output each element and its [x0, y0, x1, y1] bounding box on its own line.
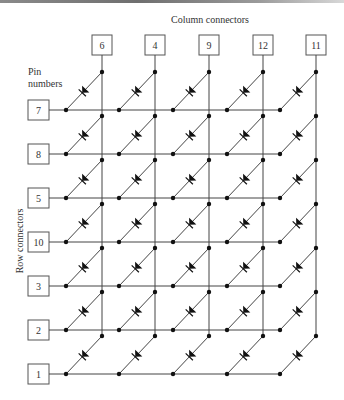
led-diode — [117, 70, 157, 112]
row-node — [225, 284, 229, 288]
column-pin-label: 11 — [311, 40, 321, 51]
led-diode — [64, 246, 104, 288]
led-diode — [225, 202, 265, 244]
led-diode — [278, 334, 318, 376]
row-node — [225, 328, 229, 332]
row-node — [278, 284, 282, 288]
column-node — [314, 246, 318, 250]
led-diode — [225, 158, 265, 200]
row-node — [64, 328, 68, 332]
led-diode — [278, 202, 318, 244]
row-pin-label: 3 — [36, 281, 41, 292]
row-pin-label: 8 — [36, 149, 41, 160]
row-node — [171, 284, 175, 288]
column-node — [207, 114, 211, 118]
column-pin-label: 4 — [153, 40, 158, 51]
row-node — [278, 240, 282, 244]
column-pin-label: 6 — [100, 40, 105, 51]
led-diode — [117, 246, 157, 288]
column-node — [153, 290, 157, 294]
led-diode — [278, 70, 318, 112]
led-diode — [278, 246, 318, 288]
led-diode — [64, 158, 104, 200]
column-node — [153, 246, 157, 250]
led-diode — [225, 114, 265, 156]
led-diode — [117, 202, 157, 244]
row-node — [278, 328, 282, 332]
column-node — [100, 334, 104, 338]
row-node — [225, 108, 229, 112]
column-node — [153, 158, 157, 162]
column-pin-label: 9 — [207, 40, 212, 51]
row-node — [278, 196, 282, 200]
row-node — [64, 108, 68, 112]
column-node — [153, 70, 157, 74]
row-node — [64, 372, 68, 376]
column-node — [100, 246, 104, 250]
led-diode — [64, 334, 104, 376]
column-node — [100, 290, 104, 294]
row-pin-label: 5 — [36, 193, 41, 204]
row-pin-label: 1 — [36, 369, 41, 380]
led-diode — [64, 290, 104, 332]
led-diode — [171, 158, 211, 200]
led-diode — [171, 70, 211, 112]
led-diode — [171, 202, 211, 244]
led-diode — [171, 114, 211, 156]
row-node — [278, 108, 282, 112]
led-diode — [171, 334, 211, 376]
led-diode — [225, 70, 265, 112]
column-node — [100, 114, 104, 118]
column-node — [261, 334, 265, 338]
column-node — [100, 70, 104, 74]
column-node — [261, 246, 265, 250]
column-node — [261, 114, 265, 118]
row-pin-label: 2 — [36, 325, 41, 336]
row-node — [117, 284, 121, 288]
row-pin-label: 10 — [34, 237, 44, 248]
row-node — [117, 152, 121, 156]
row-node — [117, 240, 121, 244]
row-node — [171, 108, 175, 112]
row-node — [117, 372, 121, 376]
led-diode — [171, 290, 211, 332]
column-pin-label: 12 — [258, 40, 268, 51]
led-diode — [117, 290, 157, 332]
led-diode — [64, 70, 104, 112]
column-node — [314, 290, 318, 294]
row-node — [171, 152, 175, 156]
led-diode — [117, 114, 157, 156]
row-node — [117, 196, 121, 200]
led-diode — [225, 334, 265, 376]
led-diode — [64, 202, 104, 244]
row-node — [171, 240, 175, 244]
row-node — [225, 196, 229, 200]
row-node — [117, 328, 121, 332]
column-node — [207, 70, 211, 74]
led-diode — [278, 290, 318, 332]
column-node — [153, 202, 157, 206]
row-node — [64, 240, 68, 244]
column-node — [207, 334, 211, 338]
row-connectors-label: Row connectors — [14, 209, 25, 274]
column-node — [261, 290, 265, 294]
row-node — [171, 328, 175, 332]
row-node — [225, 240, 229, 244]
column-node — [153, 114, 157, 118]
led-diode — [225, 246, 265, 288]
led-diode — [117, 158, 157, 200]
column-node — [100, 158, 104, 162]
led-diode — [278, 114, 318, 156]
row-pin-label: 7 — [36, 105, 41, 116]
matrix-grid: 649121178510321 — [28, 35, 326, 384]
led-matrix-diagram: Column connectors Pin numbers Row connec… — [0, 0, 344, 400]
row-node — [64, 152, 68, 156]
row-node — [64, 284, 68, 288]
column-node — [261, 202, 265, 206]
column-node — [207, 158, 211, 162]
row-node — [171, 372, 175, 376]
row-node — [64, 196, 68, 200]
column-node — [207, 246, 211, 250]
led-diode — [278, 158, 318, 200]
led-diode — [117, 334, 157, 376]
